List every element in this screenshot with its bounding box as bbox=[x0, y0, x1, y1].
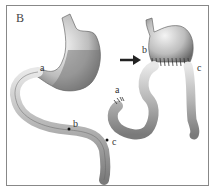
label-a-right: a bbox=[115, 85, 119, 95]
gastric-diagram bbox=[0, 0, 214, 190]
right-arrow-icon bbox=[120, 55, 141, 65]
label-c-right: c bbox=[197, 63, 201, 73]
panel-label: B bbox=[16, 12, 24, 24]
label-a-left: a bbox=[40, 63, 44, 73]
label-b-right: b bbox=[142, 45, 147, 55]
label-b-left: b bbox=[73, 119, 78, 129]
point-b bbox=[68, 128, 71, 131]
bypass-stomach bbox=[113, 18, 195, 135]
label-c-left: c bbox=[112, 137, 116, 147]
point-c bbox=[106, 139, 109, 142]
original-stomach bbox=[15, 14, 109, 180]
